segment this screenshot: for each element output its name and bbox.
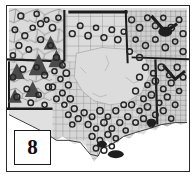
map-frame: 8 <box>6 5 190 172</box>
figure-number-box: 8 <box>14 130 51 165</box>
figure-number-label: 8 <box>27 137 38 158</box>
figure-panel: 8 <box>0 0 196 177</box>
